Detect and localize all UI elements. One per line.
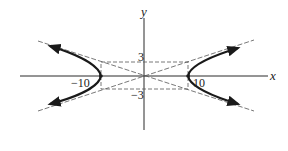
tick-label-x-pos: 10 [193, 76, 205, 90]
hyperbola-diagram: x y −10 10 3 −3 [0, 0, 288, 151]
hyperbola-left-branch [50, 46, 101, 104]
x-axis-label: x [269, 68, 276, 83]
vertex-right [186, 74, 190, 78]
tick-label-x-neg: −10 [71, 76, 90, 90]
y-axis-label: y [139, 4, 147, 19]
vertex-left [99, 74, 103, 78]
tick-label-y-pos: 3 [138, 50, 144, 64]
tick-label-y-neg: −3 [131, 88, 144, 102]
